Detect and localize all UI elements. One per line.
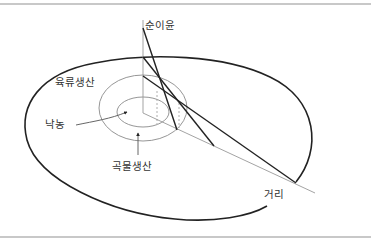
diagram-frame: 순이윤 거리 육류생산 낙농 곡물생산 — [0, 0, 371, 245]
rent-line-meat — [143, 76, 296, 183]
y-axis-label: 순이윤 — [145, 19, 175, 31]
inner-zone-label: 낙농 — [45, 118, 65, 130]
outer-zone-label: 육류생산 — [55, 76, 95, 88]
x-axis-label: 거리 — [264, 188, 284, 200]
von-thunen-diagram: 순이윤 거리 육류생산 낙농 곡물생산 — [0, 0, 371, 245]
middle-zone-label: 곡물생산 — [112, 160, 152, 172]
x-axis — [143, 113, 315, 193]
